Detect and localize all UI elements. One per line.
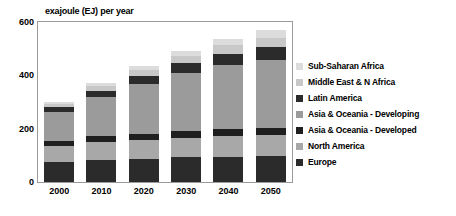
legend-label: Europe [308,157,336,167]
bar-column[interactable] [44,22,74,182]
legend-swatch-icon [296,159,303,166]
legend-swatch-icon [296,79,303,86]
bar-segment [256,128,286,135]
bar-segment [213,157,243,182]
chart-title: exajoule (EJ) per year [45,6,134,16]
y-axis-tick: 200 [0,124,34,134]
bar-segment [129,159,159,182]
bar-segment [86,142,116,160]
bar-segment [213,129,243,136]
y-axis-tick: 400 [0,70,34,80]
chart-legend: Sub-Saharan AfricaMiddle East & N Africa… [296,58,454,170]
bar-segment [171,138,201,158]
legend-item[interactable]: Europe [296,154,454,170]
legend-swatch-icon [296,63,303,70]
legend-label: Asia & Oceania - Developed [308,125,417,135]
chart-figure: exajoule (EJ) per year 0200400600 200020… [0,0,456,216]
plot-area [38,22,292,182]
legend-item[interactable]: Middle East & N Africa [296,74,454,90]
legend-label: North America [308,141,364,151]
bar-segment [213,39,243,46]
bar-segment [86,160,116,182]
bar-segment [171,157,201,182]
bar-segment [213,65,243,130]
legend-label: Latin America [308,93,362,103]
x-axis-tick: 2050 [256,186,286,196]
legend-swatch-icon [296,111,303,118]
bar-column[interactable] [256,22,286,182]
legend-label: Sub-Saharan Africa [308,61,384,71]
legend-swatch-icon [296,143,303,150]
bar-segment [256,60,286,129]
bar-segment [86,97,116,136]
bar-segment [171,63,201,73]
bar-segment [44,162,74,182]
bar-segment [256,135,286,156]
y-axis-tick: 600 [0,17,34,27]
legend-item[interactable]: Asia & Oceania - Developed [296,122,454,138]
x-axis: 200020102020203020402050 [38,186,292,202]
legend-swatch-icon [296,95,303,102]
bar-segment [213,136,243,157]
bar-segment [129,84,159,134]
legend-item[interactable]: Latin America [296,90,454,106]
x-axis-tick: 2000 [44,186,74,196]
bar-segment [171,56,201,63]
x-axis-tick: 2010 [86,186,116,196]
legend-swatch-icon [296,127,303,134]
bar-segment [256,38,286,47]
bar-segment [44,146,74,162]
bar-segment [129,76,159,84]
bar-column[interactable] [129,22,159,182]
bar-segment [213,45,243,53]
y-axis-tick: 0 [0,177,34,187]
x-axis-tick: 2020 [129,186,159,196]
bar-column[interactable] [86,22,116,182]
bar-group [38,22,292,182]
legend-label: Asia & Oceania - Developing [308,109,419,119]
bar-segment [256,30,286,38]
legend-item[interactable]: North America [296,138,454,154]
bar-segment [256,156,286,182]
x-axis-tick: 2040 [213,186,243,196]
legend-label: Middle East & N Africa [308,77,395,87]
legend-item[interactable]: Asia & Oceania - Developing [296,106,454,122]
legend-item[interactable]: Sub-Saharan Africa [296,58,454,74]
x-axis-tick: 2030 [171,186,201,196]
bar-segment [129,140,159,159]
bar-segment [256,47,286,60]
bar-segment [44,112,74,141]
bar-column[interactable] [213,22,243,182]
bar-segment [171,73,201,131]
bar-column[interactable] [171,22,201,182]
bar-segment [213,54,243,65]
y-axis: 0200400600 [0,0,34,216]
